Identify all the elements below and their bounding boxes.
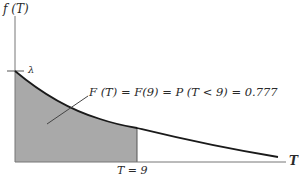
x-axis-label: T [289,155,298,167]
y-axis-label: f (T) [3,3,29,15]
annotation-text: F (T) = F(9) = P (T < 9) = 0.777 [89,87,278,99]
lambda-label: λ [28,65,34,75]
x-tick-label: T = 9 [117,165,148,176]
